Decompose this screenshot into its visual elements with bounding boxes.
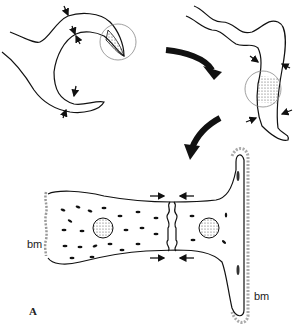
panel-label: A bbox=[29, 305, 37, 317]
bm-label-left: bm bbox=[27, 238, 42, 250]
stippled-tip bbox=[106, 30, 124, 56]
stage-2-tubule bbox=[186, 6, 288, 140]
highlight-circle-1 bbox=[100, 24, 136, 60]
diagram-canvas bbox=[0, 0, 300, 330]
stippled-segment bbox=[256, 76, 280, 104]
nucleus-bm-top bbox=[237, 171, 240, 181]
nucleus-left bbox=[93, 218, 113, 238]
transition-arrow-2-shaft bbox=[192, 118, 220, 148]
nucleus-right bbox=[199, 218, 219, 238]
junction-arrows bbox=[150, 196, 194, 258]
constriction-arrows-1 bbox=[63, 6, 80, 118]
basement-membrane-left bbox=[45, 192, 46, 256]
nucleus-bm-bottom bbox=[237, 265, 240, 275]
transition-arrow-2-head bbox=[184, 144, 200, 160]
bm-label-right: bm bbox=[254, 290, 269, 302]
